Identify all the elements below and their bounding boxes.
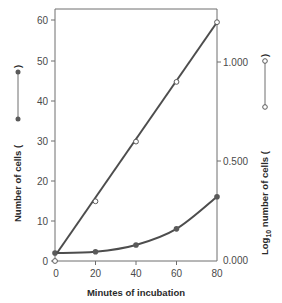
y-right-title: Log10 number of cells ( (259, 150, 272, 255)
y-tick-label: 20 (37, 176, 49, 187)
log-cells-line (57, 22, 217, 253)
x-tick-label: 80 (211, 268, 223, 279)
y-right-tick-label: 0.500 (223, 156, 248, 167)
x-axis-labels: 0 20 40 60 80 (53, 268, 223, 279)
plot-frame (55, 9, 217, 261)
y-left-title: Number of cells ( (12, 144, 23, 222)
filled-data-point (133, 242, 139, 248)
left-axis-ticks (51, 20, 55, 261)
open-circle-icon (263, 59, 268, 64)
series-layer (52, 20, 220, 264)
svg-text:Number of cells (: Number of cells ( (12, 144, 23, 222)
y-tick-label: 0 (42, 256, 48, 267)
y-tick-label: 40 (37, 96, 49, 107)
y-tick-label: 30 (37, 136, 49, 147)
right-axis-labels: 0.000 0.500 1.000 (223, 57, 248, 267)
y-left-title-text: Number of cells ( (12, 144, 23, 222)
x-axis-ticks (96, 261, 177, 265)
filled-data-point (214, 194, 220, 200)
y-right-title-close: ) (259, 54, 270, 57)
y-tick-label: 50 (37, 56, 49, 67)
filled-circle-icon (16, 70, 21, 75)
x-tick-label: 60 (171, 268, 183, 279)
open-data-point (134, 139, 139, 144)
filled-circle-icon (16, 117, 21, 122)
filled-data-point (52, 250, 58, 256)
left-axis-labels: 0 10 20 30 40 50 60 (37, 15, 49, 267)
x-tick-label: 20 (90, 268, 102, 279)
x-axis-title: Minutes of incubation (87, 287, 185, 298)
chart: 0 10 20 30 40 50 60 0.000 0.500 1.000 0 … (0, 0, 282, 303)
open-data-point (174, 80, 179, 85)
open-circle-icon (263, 105, 268, 110)
y-tick-label: 60 (37, 15, 49, 26)
y-right-tick-label: 1.000 (223, 57, 248, 68)
open-data-point (215, 20, 220, 25)
open-data-point (53, 259, 58, 264)
x-tick-label: 0 (53, 268, 59, 279)
svg-text:Log10 number of cells (: Log10 number of cells ( (259, 150, 272, 255)
filled-data-point (174, 226, 180, 232)
right-axis-ticks (217, 62, 221, 161)
y-right-tick-label: 0.000 (223, 255, 248, 266)
filled-data-point (93, 249, 99, 255)
legend-filled-marker (16, 70, 21, 122)
open-data-point (93, 199, 98, 204)
legend-open-marker (263, 59, 268, 110)
y-left-title-close: ) (12, 65, 23, 68)
y-tick-label: 10 (37, 216, 49, 227)
x-tick-label: 40 (130, 268, 142, 279)
